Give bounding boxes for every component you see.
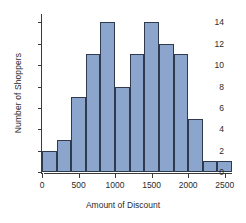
y-tick-mark bbox=[38, 22, 42, 23]
x-tick-label: 2000 bbox=[179, 180, 198, 190]
x-tick-label: 2500 bbox=[215, 180, 234, 190]
histogram-bar bbox=[115, 87, 130, 172]
histogram-bar bbox=[42, 151, 57, 172]
y-tick-label: 12 bbox=[215, 39, 224, 49]
y-tick-mark bbox=[38, 151, 42, 152]
histogram-bar bbox=[86, 54, 101, 172]
histogram-figure: Number of Shoppers 02468101214 050010001… bbox=[0, 0, 246, 223]
y-axis-title: Number of Shoppers bbox=[13, 28, 23, 158]
histogram-bar bbox=[130, 54, 145, 172]
y-tick-label: 4 bbox=[219, 124, 224, 134]
x-tick-label: 1500 bbox=[142, 180, 161, 190]
x-tick-label: 0 bbox=[40, 180, 45, 190]
histogram-bar bbox=[188, 119, 203, 172]
histogram-bar bbox=[174, 54, 189, 172]
x-tick-mark bbox=[225, 173, 226, 178]
x-tick-mark bbox=[152, 173, 153, 178]
x-tick-mark bbox=[42, 173, 43, 178]
y-tick-mark bbox=[38, 44, 42, 45]
histogram-bar bbox=[57, 140, 72, 172]
y-tick-mark bbox=[38, 108, 42, 109]
y-tick-mark bbox=[38, 65, 42, 66]
y-tick-label: 10 bbox=[215, 60, 224, 70]
x-tick-label: 500 bbox=[71, 180, 85, 190]
plot-area: 02468101214 05001000150020002500 bbox=[42, 16, 232, 172]
histogram-bar bbox=[203, 161, 218, 172]
histogram-bar bbox=[100, 22, 115, 172]
y-tick-label: 0 bbox=[219, 167, 224, 177]
y-tick-label: 6 bbox=[219, 103, 224, 113]
x-axis-title: Amount of Discount bbox=[0, 200, 246, 210]
y-tick-label: 8 bbox=[219, 82, 224, 92]
histogram-bar bbox=[159, 44, 174, 172]
x-tick-mark bbox=[188, 173, 189, 178]
x-axis-line bbox=[44, 173, 232, 174]
y-tick-label: 2 bbox=[219, 146, 224, 156]
histogram-bar bbox=[144, 22, 159, 172]
y-tick-mark bbox=[38, 87, 42, 88]
x-tick-mark bbox=[115, 173, 116, 178]
histogram-bar bbox=[71, 97, 86, 172]
y-tick-mark bbox=[38, 129, 42, 130]
x-tick-mark bbox=[79, 173, 80, 178]
y-tick-label: 14 bbox=[215, 17, 224, 27]
x-tick-label: 1000 bbox=[106, 180, 125, 190]
